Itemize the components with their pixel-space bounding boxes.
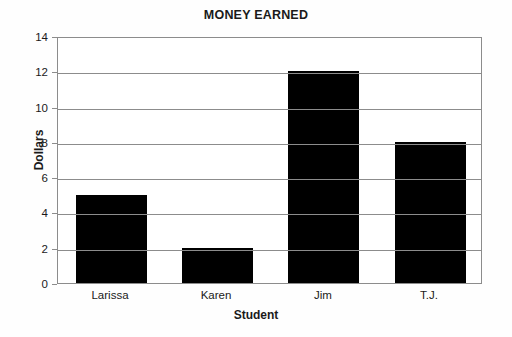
y-axis-tick-label: 0 [8,278,48,290]
y-axis-tick-label: 10 [8,102,48,114]
y-axis-tick-mark [52,72,57,73]
y-axis-tick-mark [52,37,57,38]
gridline [58,144,481,145]
gridline [58,179,481,180]
y-axis-tick-mark [52,213,57,214]
x-axis-title: Student [0,308,512,322]
y-axis-tick-mark [52,143,57,144]
gridline [58,109,481,110]
bar [395,142,466,283]
x-axis-category-label: Karen [201,289,232,301]
x-axis-category-label: Jim [314,289,332,301]
chart-title: MONEY EARNED [0,8,512,22]
x-axis-category-label: Larissa [91,289,128,301]
y-axis-tick-mark [52,249,57,250]
gridline [58,250,481,251]
bar [182,248,253,283]
gridline [58,73,481,74]
bar [76,195,147,283]
bar [288,71,359,283]
bars-layer [58,38,481,283]
y-axis-tick-label: 12 [8,66,48,78]
x-axis-category-label: T.J. [420,289,438,301]
y-axis-tick-mark [52,178,57,179]
y-axis-tick-label: 2 [8,243,48,255]
bar-chart-figure: MONEY EARNED Dollars 02468101214 Larissa… [0,0,512,337]
y-axis-tick-mark [52,284,57,285]
y-axis-tick-label: 4 [8,207,48,219]
gridline [58,214,481,215]
y-axis-tick-mark [52,108,57,109]
y-axis-tick-label: 6 [8,172,48,184]
y-axis-tick-label: 14 [8,31,48,43]
y-axis-tick-label: 8 [8,137,48,149]
plot-area [57,37,482,284]
